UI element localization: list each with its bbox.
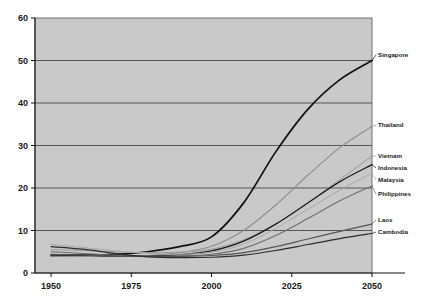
x-tick-label-2025: 2025: [282, 281, 302, 291]
y-tick-label-30: 30: [18, 141, 28, 151]
x-tick-label-2050: 2050: [362, 281, 382, 291]
leader-line-indonesia: [372, 165, 376, 168]
y-tick-label-0: 0: [23, 268, 28, 278]
y-tick-label-10: 10: [18, 226, 28, 236]
series-label-malaysia: Malaysia: [378, 176, 404, 183]
leader-line-cambodia: [372, 232, 376, 233]
y-axis-ticks: 0102030405060: [18, 13, 35, 278]
series-labels-group: SingaporeThailandVietnamIndonesiaMalaysi…: [372, 51, 412, 235]
line-chart: 0102030405060 19501975200020252050 Singa…: [0, 0, 431, 307]
x-tick-label-2000: 2000: [202, 281, 222, 291]
leader-line-philippines: [372, 186, 376, 194]
x-tick-label-1950: 1950: [41, 281, 61, 291]
series-label-cambodia: Cambodia: [378, 228, 408, 235]
x-tick-label-1975: 1975: [121, 281, 141, 291]
y-tick-label-50: 50: [18, 56, 28, 66]
y-tick-label-60: 60: [18, 13, 28, 23]
series-label-singapore: Singapore: [378, 51, 409, 58]
leader-line-malaysia: [372, 173, 376, 180]
y-tick-label-40: 40: [18, 98, 28, 108]
x-axis-ticks: 19501975200020252050: [41, 273, 382, 291]
leader-line-singapore: [372, 55, 376, 61]
series-label-laos: Laos: [378, 216, 393, 223]
series-label-indonesia: Indonesia: [378, 164, 407, 171]
series-label-vietnam: Vietnam: [378, 152, 402, 159]
leader-line-thailand: [372, 125, 376, 126]
y-tick-label-20: 20: [18, 183, 28, 193]
series-label-philippines: Philippines: [378, 190, 412, 197]
leader-line-laos: [372, 220, 376, 224]
chart-container: 0102030405060 19501975200020252050 Singa…: [0, 0, 431, 307]
series-label-thailand: Thailand: [378, 121, 404, 128]
